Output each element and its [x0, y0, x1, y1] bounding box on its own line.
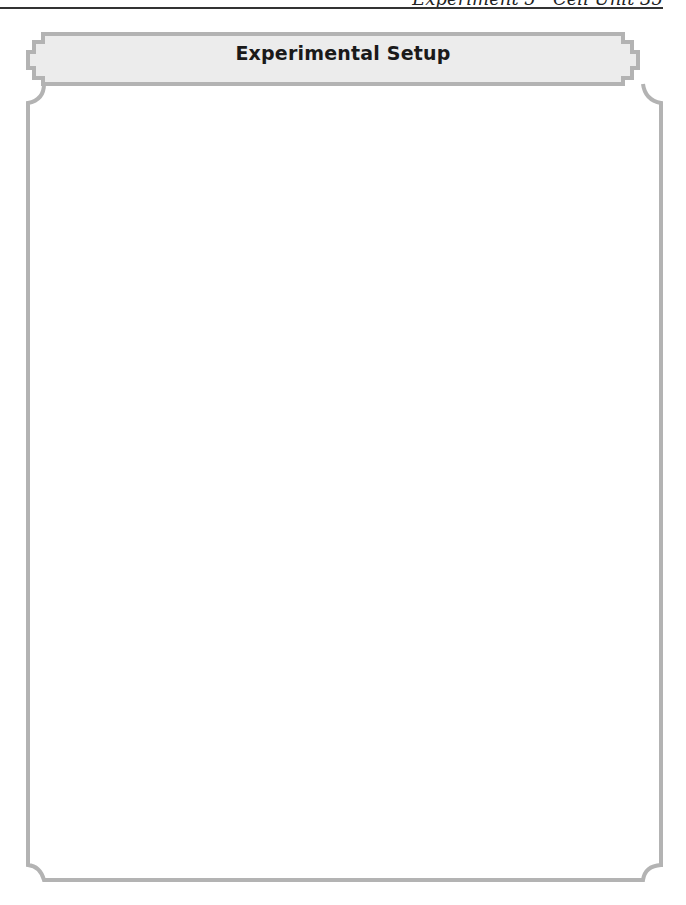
box-content-area: [32, 90, 658, 876]
box-title: Experimental Setup: [0, 42, 686, 64]
